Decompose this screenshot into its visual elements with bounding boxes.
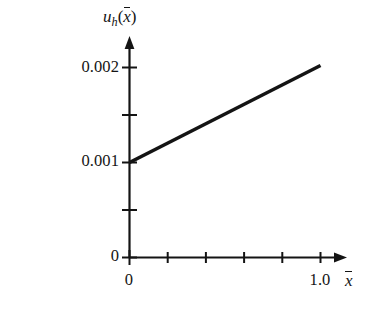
chart-plot-area	[0, 0, 376, 311]
x-axis-title-variable: x	[345, 272, 353, 289]
x-axis-arrowhead	[334, 253, 347, 263]
y-axis-title: uh(x)	[103, 8, 137, 28]
y-axis-arrowhead	[125, 36, 135, 49]
figure-canvas: 0.002 0.001 0 0 1.0 uh(x) x	[0, 0, 376, 311]
y-axis-title-close-paren: )	[131, 7, 137, 26]
x-axis-title: x	[345, 272, 353, 289]
x-axis-tick-label-10: 1.0	[298, 272, 342, 289]
data-series-uh	[130, 66, 321, 163]
y-axis-title-base: u	[103, 7, 112, 26]
y-axis-tick-label-0001: 0.001	[61, 153, 119, 170]
y-axis-title-variable: x	[123, 8, 131, 25]
x-axis-tick-label-0: 0	[114, 272, 144, 289]
y-axis-tick-label-0: 0	[88, 248, 119, 265]
y-axis-tick-label-0002: 0.002	[61, 59, 119, 76]
